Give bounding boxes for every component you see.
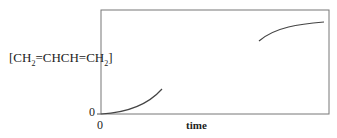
early-curve bbox=[101, 89, 162, 114]
chart-canvas bbox=[0, 0, 337, 138]
y-tick-zero: 0 bbox=[89, 105, 95, 120]
x-tick-zero: 0 bbox=[97, 118, 103, 133]
x-axis-label: time bbox=[186, 119, 207, 131]
y-axis-label: [CH2=CHCH=CH2] bbox=[9, 50, 113, 68]
late-curve bbox=[259, 22, 324, 41]
